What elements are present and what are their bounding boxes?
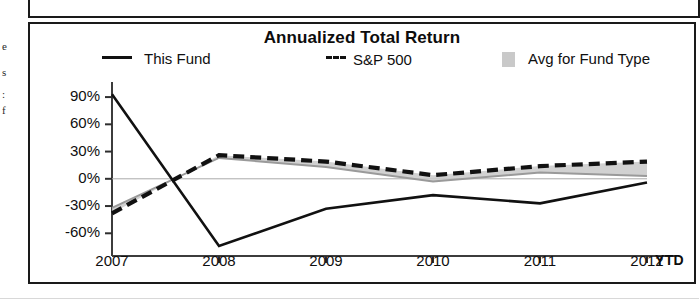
- series-line-sp500: [112, 155, 647, 213]
- y-axis-tick-label: 30%: [44, 142, 100, 159]
- x-axis-tick-label: 2008: [189, 252, 249, 269]
- area-fill-layer: [112, 155, 647, 213]
- x-axis-ytd-label: YTD: [655, 252, 684, 268]
- y-axis-tick-label: -30%: [44, 196, 100, 213]
- page-bottom-rule: [0, 298, 699, 299]
- avg-fund-type-band: [112, 155, 647, 213]
- x-axis-tick-label: 2010: [403, 252, 463, 269]
- gutter-text-fragment-3: :: [2, 88, 5, 100]
- chart-container: Annualized Total Return This Fund S&P 50…: [28, 22, 696, 284]
- y-axis-tick-label: 60%: [44, 114, 100, 131]
- y-axis-tick-label: -60%: [44, 223, 100, 240]
- x-axis-tick-label: 2011: [510, 252, 570, 269]
- y-axis-tick-label: 0%: [44, 169, 100, 186]
- plot-area: [30, 24, 694, 282]
- gutter-text-fragment-4: f: [2, 104, 5, 116]
- gutter-text-fragment-1: e: [2, 40, 6, 52]
- x-axis-tick-label: 2009: [296, 252, 356, 269]
- x-axis-tick-label: 2007: [82, 252, 142, 269]
- adjacent-box-above: [28, 0, 700, 18]
- gutter-text-fragment-2: s: [2, 66, 6, 78]
- y-axis-tick-label: 90%: [44, 87, 100, 104]
